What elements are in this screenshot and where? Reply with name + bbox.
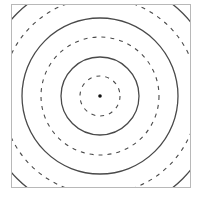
- concentric-circles-diagram: [0, 0, 204, 200]
- solid-circle-6: [0, 0, 204, 200]
- center-point: [98, 94, 102, 98]
- circles-group: [0, 0, 204, 200]
